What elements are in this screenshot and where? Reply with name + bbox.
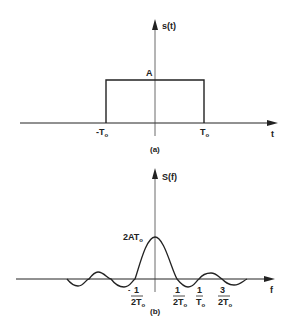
- svg-text:1: 1: [197, 285, 202, 295]
- t0-label: To: [200, 127, 210, 138]
- S-axis-arrow-icon: [152, 168, 158, 179]
- figure-a: s(t) A -To To t (a): [20, 19, 278, 154]
- svg-text:2To: 2To: [218, 297, 233, 308]
- tick-neg-half: 1 - 2To: [128, 285, 146, 308]
- f-axis-label: f: [270, 285, 274, 295]
- t-axis-arrow-icon: [267, 120, 278, 126]
- s-axis-arrow-icon: [152, 19, 158, 30]
- rect-pulse-and-spectrum-diagram: s(t) A -To To t (a) S(f) 2ATo 1 - 2To 1 …: [0, 0, 300, 328]
- neg-t0-label: -To: [96, 127, 109, 138]
- t-axis-label: t: [271, 129, 274, 139]
- s-axis-label: s(t): [162, 21, 176, 31]
- svg-text:1: 1: [175, 285, 180, 295]
- tick-three-half: 3 2To: [218, 285, 233, 308]
- svg-text:2To: 2To: [131, 297, 146, 308]
- peak-label: 2ATo: [123, 232, 143, 243]
- svg-text:To: To: [196, 297, 206, 308]
- tick-pos-half: 1 2To: [173, 285, 188, 308]
- figure-b: S(f) 2ATo 1 - 2To 1 2To 1 To 3 2To f (b): [16, 168, 275, 316]
- f-axis-arrow-icon: [264, 276, 275, 282]
- svg-text:3: 3: [220, 285, 225, 295]
- svg-text:2To: 2To: [173, 297, 188, 308]
- S-axis-label: S(f): [162, 172, 177, 182]
- svg-text:1: 1: [134, 285, 139, 295]
- tick-one: 1 To: [196, 285, 206, 308]
- svg-text:-: -: [128, 286, 131, 293]
- caption-b: (b): [150, 307, 161, 316]
- amplitude-label: A: [146, 68, 153, 78]
- caption-a: (a): [150, 145, 160, 154]
